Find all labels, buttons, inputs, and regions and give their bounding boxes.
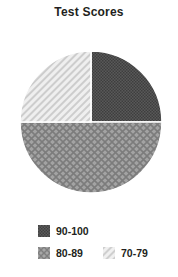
legend-label-70-79: 70-79	[121, 247, 148, 259]
legend-swatch-80-89-icon	[38, 247, 50, 259]
pie-slice-80-89	[20, 122, 162, 193]
chart-title: Test Scores	[0, 5, 178, 19]
legend-label-80-89: 80-89	[56, 247, 83, 259]
pie-plot-area	[0, 30, 178, 214]
pie-svg	[0, 30, 178, 214]
legend-label-90-100: 90-100	[56, 225, 89, 237]
legend-item-80-89: 80-89	[38, 244, 83, 262]
legend-swatch-90-100-icon	[38, 225, 50, 237]
chart-legend: 90-100 80-89 70-79	[0, 218, 178, 268]
pie-chart-figure: Test Scores	[0, 0, 178, 277]
pie-slice-70-79	[20, 51, 91, 122]
legend-item-90-100: 90-100	[38, 222, 89, 240]
legend-swatch-70-79-icon	[103, 247, 115, 259]
legend-item-70-79: 70-79	[103, 244, 148, 262]
pie-slice-90-100	[91, 51, 162, 122]
